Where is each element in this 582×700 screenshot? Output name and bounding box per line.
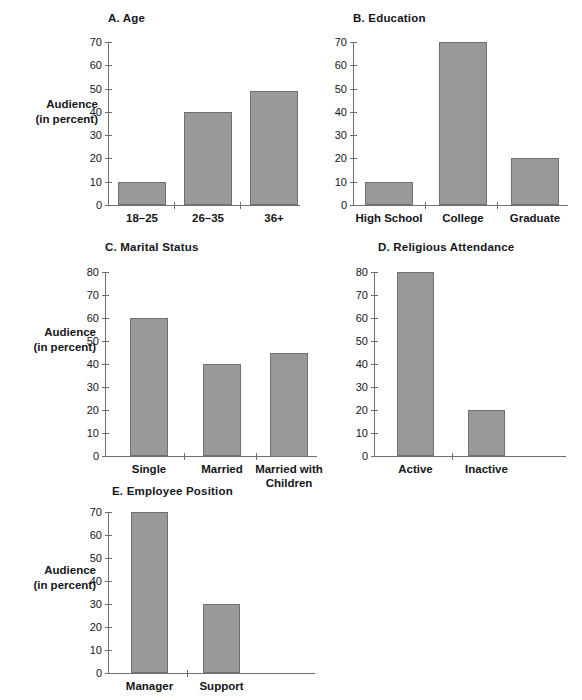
y-tick-label: 50: [76, 84, 102, 95]
y-tick-mark: [350, 135, 357, 136]
y-tick-mark: [102, 295, 109, 296]
bar: [203, 604, 240, 673]
y-tick-label: 10: [342, 428, 368, 439]
bar: [511, 158, 559, 205]
plot-area-d: 80706050403020100ActiveInactive: [374, 272, 566, 456]
y-tick-label: 30: [76, 599, 102, 610]
x-tick-mark: [240, 202, 241, 209]
x-tick-mark: [452, 453, 453, 460]
y-tick-mark: [105, 158, 112, 159]
y-tick-mark: [371, 272, 378, 273]
y-tick-label: 30: [321, 130, 347, 141]
x-category-label: Support: [177, 679, 267, 693]
y-tick-label: 40: [76, 576, 102, 587]
x-tick-mark: [256, 453, 257, 460]
y-tick-label: 0: [73, 451, 99, 462]
chart-title-d: D. Religious Attendance: [378, 241, 514, 253]
bar: [184, 112, 232, 205]
y-tick-label: 40: [342, 359, 368, 370]
y-axis-label-e: Audience(in percent): [12, 563, 96, 593]
y-axis-label-line2: (in percent): [14, 112, 98, 127]
y-tick-label: 80: [73, 267, 99, 278]
y-tick-mark: [371, 295, 378, 296]
y-tick-mark: [105, 581, 112, 582]
x-axis-line: [108, 205, 300, 206]
y-axis-line: [108, 512, 109, 674]
y-axis-label-c: Audience(in percent): [12, 325, 96, 355]
x-axis-line: [105, 456, 317, 457]
y-tick-label: 20: [76, 153, 102, 164]
y-tick-label: 20: [321, 153, 347, 164]
y-tick-mark: [105, 205, 112, 206]
plot-area-c: 80706050403020100SingleMarriedMarried wi…: [105, 272, 317, 456]
y-tick-mark: [371, 410, 378, 411]
y-tick-label: 10: [321, 177, 347, 188]
y-tick-mark: [105, 89, 112, 90]
y-axis-line: [108, 42, 109, 206]
y-tick-label: 70: [342, 290, 368, 301]
y-axis-label-line1: Audience: [12, 325, 96, 340]
y-tick-mark: [102, 387, 109, 388]
y-tick-label: 10: [73, 428, 99, 439]
x-category-label: Single: [104, 462, 194, 476]
y-axis-label-a: Audience(in percent): [14, 97, 98, 127]
y-tick-mark: [350, 205, 357, 206]
x-category-label: 26–35: [163, 211, 253, 225]
chart-panel-a: A. AgeAudience(in percent)70605040302010…: [0, 0, 582, 700]
x-category-label: 18–25: [97, 211, 187, 225]
y-tick-label: 30: [342, 382, 368, 393]
x-category-label: Inactive: [442, 462, 532, 476]
x-tick-mark: [184, 453, 185, 460]
chart-title-b: B. Education: [353, 12, 426, 24]
y-tick-mark: [350, 65, 357, 66]
y-tick-label: 30: [76, 130, 102, 141]
x-category-label: Married: [177, 462, 267, 476]
bar: [397, 272, 434, 456]
y-tick-label: 70: [73, 290, 99, 301]
chart-panel-e: E. Employee PositionAudience(in percent)…: [0, 0, 582, 700]
x-tick-mark: [187, 670, 188, 677]
y-tick-mark: [350, 42, 357, 43]
y-tick-mark: [105, 512, 112, 513]
y-tick-mark: [371, 456, 378, 457]
y-tick-label: 10: [76, 645, 102, 656]
chart-panel-d: D. Religious Attendance80706050403020100…: [0, 0, 582, 700]
y-tick-label: 40: [73, 359, 99, 370]
y-tick-mark: [105, 135, 112, 136]
x-category-label: College: [418, 211, 508, 225]
x-tick-mark: [497, 202, 498, 209]
y-tick-label: 0: [76, 668, 102, 679]
y-tick-mark: [371, 341, 378, 342]
bar: [365, 182, 413, 205]
y-tick-label: 80: [342, 267, 368, 278]
y-tick-mark: [371, 387, 378, 388]
x-axis-line: [374, 456, 566, 457]
y-tick-label: 70: [76, 37, 102, 48]
chart-title-c: C. Marital Status: [105, 241, 199, 253]
y-tick-mark: [105, 42, 112, 43]
y-axis-line: [374, 272, 375, 457]
bar: [118, 182, 166, 205]
y-tick-mark: [102, 341, 109, 342]
y-tick-mark: [105, 65, 112, 66]
y-tick-label: 60: [76, 530, 102, 541]
y-tick-label: 10: [76, 177, 102, 188]
y-tick-label: 0: [321, 200, 347, 211]
x-tick-mark: [425, 202, 426, 209]
y-tick-mark: [102, 364, 109, 365]
y-tick-label: 40: [321, 107, 347, 118]
bar: [439, 42, 487, 205]
y-tick-label: 20: [342, 405, 368, 416]
y-tick-mark: [105, 673, 112, 674]
x-axis-line: [108, 673, 315, 674]
y-tick-label: 60: [76, 60, 102, 71]
y-tick-mark: [350, 112, 357, 113]
y-axis-label-line2: (in percent): [12, 578, 96, 593]
x-category-label: 36+: [229, 211, 319, 225]
x-tick-mark: [174, 202, 175, 209]
y-tick-label: 50: [73, 336, 99, 347]
y-tick-mark: [105, 627, 112, 628]
y-tick-label: 50: [76, 553, 102, 564]
y-axis-line: [105, 272, 106, 457]
y-tick-label: 60: [321, 60, 347, 71]
